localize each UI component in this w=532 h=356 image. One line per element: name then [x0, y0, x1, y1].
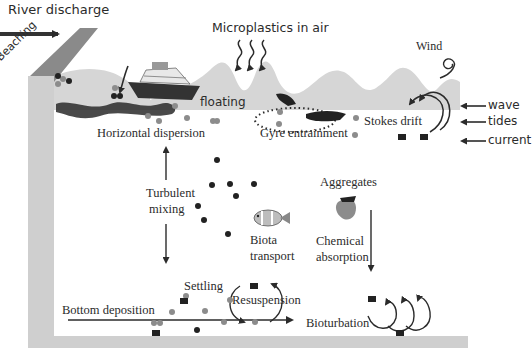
label-stokes-drift: Stokes drift: [364, 115, 422, 128]
plastic-fragment: [306, 111, 346, 121]
microplastics-air-arrows: [236, 40, 266, 70]
label-horizontal-dispersion: Horizontal dispersion: [97, 127, 205, 140]
label-absorption: absorption: [316, 251, 369, 264]
label-resuspension: Resuspension: [232, 294, 301, 307]
label-turbulent: Turbulent: [146, 187, 195, 200]
label-transport: transport: [250, 250, 294, 263]
label-tides: tides: [488, 115, 517, 127]
label-bioturbation: Bioturbation: [306, 317, 369, 330]
label-floating: floating: [200, 96, 246, 108]
wind-swirl-icon: [440, 59, 454, 78]
label-wave: wave: [488, 99, 520, 111]
label-settling: Settling: [184, 280, 223, 293]
label-bottom-deposition: Bottom deposition: [62, 304, 155, 317]
label-biota: Biota: [250, 234, 277, 247]
label-gyre-entrainment: Gyre entrainment: [260, 127, 348, 140]
label-aggregates: Aggregates: [320, 176, 377, 189]
label-river-discharge: River discharge: [8, 3, 109, 16]
label-chemical: Chemical: [316, 235, 364, 248]
microplastics-transport-diagram: River discharge Beaching Microplastics i…: [0, 0, 532, 356]
label-microplastics-in-air: Microplastics in air: [212, 22, 329, 35]
label-mixing: mixing: [149, 203, 184, 216]
label-current: current: [488, 134, 531, 146]
cruise-ship-icon: [128, 62, 200, 100]
label-wind: Wind: [416, 40, 442, 52]
